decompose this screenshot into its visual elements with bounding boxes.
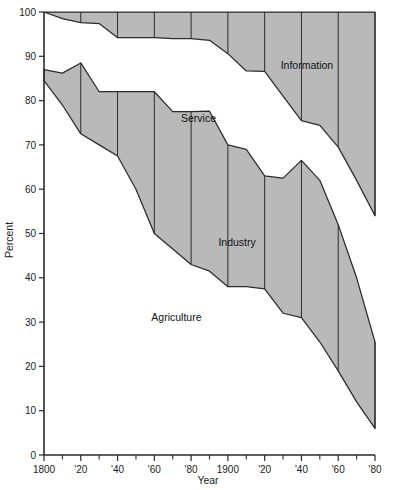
y-tick-label-100: 100 xyxy=(19,7,36,18)
y-tick-label-20: 20 xyxy=(25,361,37,372)
x-tick-label-1980: '80 xyxy=(368,464,381,475)
y-tick-label-0: 0 xyxy=(30,450,36,461)
x-axis-ticks: 1800'20'40'60'801900'20'40'60'80 xyxy=(33,455,382,475)
x-tick-label-1940: '40 xyxy=(295,464,308,475)
area-chart-canvas: 0102030405060708090100 1800'20'40'60'801… xyxy=(0,0,401,490)
x-tick-label-1860: '60 xyxy=(148,464,161,475)
y-tick-label-30: 30 xyxy=(25,317,37,328)
x-tick-label-1900: 1900 xyxy=(217,464,240,475)
x-axis-title: Year xyxy=(197,474,219,486)
y-tick-label-90: 90 xyxy=(25,51,37,62)
x-tick-label-1880: '80 xyxy=(185,464,198,475)
x-tick-label-1840: '40 xyxy=(111,464,124,475)
label-information: Information xyxy=(281,59,334,71)
y-tick-label-80: 80 xyxy=(25,95,37,106)
x-tick-label-1920: '20 xyxy=(258,464,271,475)
y-tick-label-50: 50 xyxy=(25,228,37,239)
y-axis-ticks: 0102030405060708090100 xyxy=(19,7,44,461)
y-tick-label-40: 40 xyxy=(25,272,37,283)
label-service: Service xyxy=(181,112,216,124)
x-tick-label-1800: 1800 xyxy=(33,464,56,475)
label-agriculture: Agriculture xyxy=(151,311,201,323)
y-tick-label-60: 60 xyxy=(25,184,37,195)
x-tick-label-1960: '60 xyxy=(332,464,345,475)
y-tick-label-10: 10 xyxy=(25,405,37,416)
y-axis-title: Percent xyxy=(3,222,15,258)
chart-figure: 0102030405060708090100 1800'20'40'60'801… xyxy=(0,0,401,490)
band-areas xyxy=(44,12,375,428)
y-tick-label-70: 70 xyxy=(25,140,37,151)
x-tick-label-1820: '20 xyxy=(74,464,87,475)
label-industry: Industry xyxy=(218,236,256,248)
